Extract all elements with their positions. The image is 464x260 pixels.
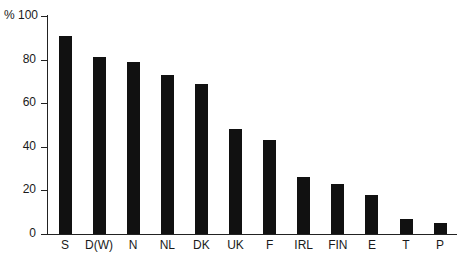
- bar-chart: 020406080% 100 SD(W)NNLDKUKFIRLFINETP: [0, 0, 464, 260]
- bar-irl: [297, 177, 310, 234]
- bar-t: [400, 219, 413, 234]
- y-tick-mark: [41, 147, 47, 148]
- y-tick-mark: [41, 190, 47, 191]
- bar-dk: [195, 84, 208, 234]
- bar-n: [127, 62, 140, 234]
- x-axis-line: [41, 234, 457, 235]
- y-tick-mark: [41, 103, 47, 104]
- bar-dw: [93, 57, 106, 234]
- y-tick-label: 40: [0, 139, 36, 153]
- y-tick-label: 60: [0, 95, 36, 109]
- bar-e: [365, 195, 378, 234]
- y-tick-mark: [41, 16, 47, 17]
- bar-uk: [229, 129, 242, 234]
- y-tick-label: 20: [0, 182, 36, 196]
- y-tick-mark: [41, 60, 47, 61]
- y-tick-label: % 100: [0, 8, 38, 22]
- y-tick-mark: [41, 234, 47, 235]
- bar-p: [434, 223, 447, 234]
- y-tick-label: 0: [0, 226, 36, 240]
- bar-fin: [331, 184, 344, 234]
- bar-nl: [161, 75, 174, 234]
- x-tick-label: P: [420, 238, 460, 252]
- y-tick-label: 80: [0, 52, 36, 66]
- bar-s: [59, 36, 72, 234]
- y-axis-line: [47, 15, 48, 235]
- bar-f: [263, 140, 276, 234]
